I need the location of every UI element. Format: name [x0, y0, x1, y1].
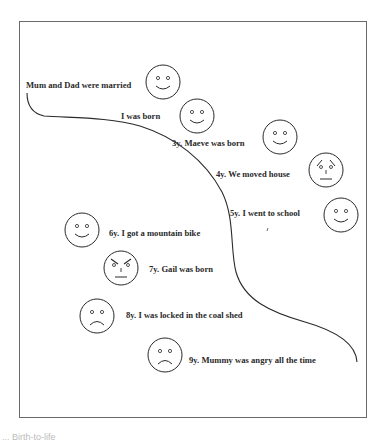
- event-label: 7y. Gail was born: [149, 264, 213, 274]
- figure-caption: ... Birth-to-life: [2, 432, 56, 440]
- lifeline-drawing: [0, 0, 388, 440]
- event-label: 6y. I got a mountain bike: [109, 228, 200, 238]
- event-label: 5y. I went to school: [230, 208, 300, 218]
- happy-face-icon: [146, 65, 180, 99]
- happy-face-icon: [324, 198, 358, 232]
- stray-mark: [267, 228, 268, 231]
- start-label: Mum and Dad were married: [26, 80, 131, 90]
- happy-face-icon: [263, 120, 297, 154]
- happy-face-icon: [65, 213, 99, 247]
- event-label: 9y. Mummy was angry all the time: [189, 355, 316, 365]
- worried-face-icon: [309, 153, 343, 187]
- event-label: 3y. Maeve was born: [172, 138, 245, 148]
- angry-face-icon: [104, 251, 138, 285]
- sad-face-icon: [148, 338, 182, 372]
- event-label: I was born: [121, 111, 160, 121]
- event-label: 4y. We moved house: [216, 169, 290, 179]
- happy-face-icon: [180, 99, 214, 133]
- event-label: 8y. I was locked in the coal shed: [126, 310, 243, 320]
- sad-face-icon: [80, 299, 114, 333]
